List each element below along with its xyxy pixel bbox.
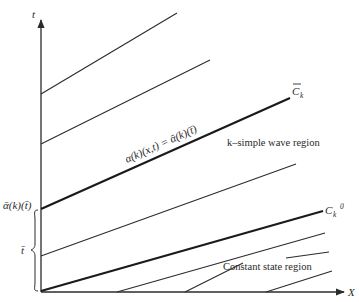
- c-bar-k-label: C k: [292, 84, 304, 100]
- characteristic-line-1: [41, 13, 177, 94]
- characteristic-line-3: [41, 164, 296, 256]
- t-axis-label: t: [32, 8, 36, 20]
- k-simple-wave-region-label: k–simple wave region: [227, 137, 320, 148]
- characteristic-c-k-zero: [41, 211, 323, 291]
- alpha-bar-k-tbar-label: ᾱ(k)(t̄): [3, 199, 32, 212]
- constant-line-3: [266, 271, 332, 292]
- x-axis-label: X: [347, 286, 356, 298]
- t-bar-brace: [31, 210, 38, 291]
- svg-text:0: 0: [340, 202, 344, 211]
- characteristics-diagram: t X C k C k 0 α(k)(x,t) = ᾱ(k)(t̄) k–sim…: [0, 0, 359, 302]
- characteristic-c-bar-k: [41, 98, 290, 209]
- svg-text:C: C: [292, 85, 300, 97]
- c-k-zero-label: C k 0: [325, 202, 344, 219]
- svg-text:C: C: [325, 204, 333, 216]
- svg-text:k: k: [300, 91, 304, 100]
- svg-text:k: k: [333, 210, 337, 219]
- t-bar-label: t̄: [21, 244, 25, 256]
- constant-state-region-label: Constant state region: [223, 261, 312, 272]
- constant-line-2b: [286, 252, 329, 258]
